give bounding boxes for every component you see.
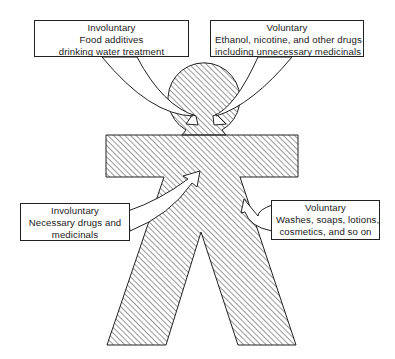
label-line: Ethanol, nicotine, and other drugs [215,34,359,46]
label-line: including unnecessary medicinals [215,46,359,58]
label-top-left: Involuntary Food additives drinking wate… [34,20,189,57]
label-bottom-right: Voluntary Washes, soaps, lotions, cosmet… [271,200,380,240]
label-line: drinking water treatment [39,46,184,58]
label-category: Voluntary [276,202,375,214]
label-category: Voluntary [215,22,359,34]
label-category: Involuntary [25,205,125,217]
torso-and-legs [106,135,298,345]
label-line: Washes, soaps, lotions, [276,214,375,226]
label-line: Necessary drugs and [25,217,125,229]
label-top-right: Voluntary Ethanol, nicotine, and other d… [210,20,364,57]
head [168,63,240,135]
label-bottom-left: Involuntary Necessary drugs and medicina… [20,203,130,241]
label-line: Food additives [39,34,184,46]
label-line: medicinals [25,229,125,241]
label-category: Involuntary [39,22,184,34]
body-silhouette [106,63,298,345]
label-line: cosmetics, and so on [276,226,375,238]
